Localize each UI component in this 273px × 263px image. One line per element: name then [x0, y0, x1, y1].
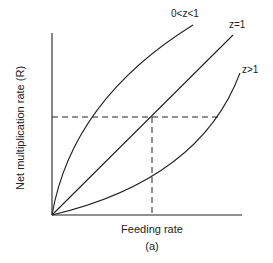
x-axis-label: Feeding rate	[121, 223, 183, 235]
curve-label-concave: 0<z<1	[171, 8, 199, 19]
y-axis-label: Net multiplication rate (R)	[14, 66, 26, 190]
curve-label-convex: z>1	[242, 64, 259, 75]
caption: (a)	[145, 240, 158, 252]
curve-convex	[52, 73, 240, 215]
figure: 0<z<1 z=1 z>1 Feeding rate (a) Net multi…	[0, 0, 273, 263]
curve-label-linear: z=1	[229, 19, 246, 30]
curve-concave	[52, 25, 193, 215]
